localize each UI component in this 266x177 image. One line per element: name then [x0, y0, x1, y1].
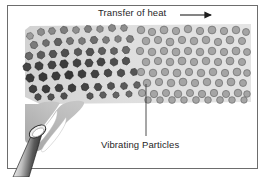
diagram-stage: Transfer of heat Vibrating Particles	[0, 0, 266, 177]
vibrating-particles-label: Vibrating Particles	[101, 139, 179, 150]
heat-transfer-title-label: Transfer of heat	[98, 7, 166, 18]
heat-transfer-diagram: Transfer of heat Vibrating Particles	[0, 0, 266, 177]
diagram-artwork	[0, 0, 266, 177]
